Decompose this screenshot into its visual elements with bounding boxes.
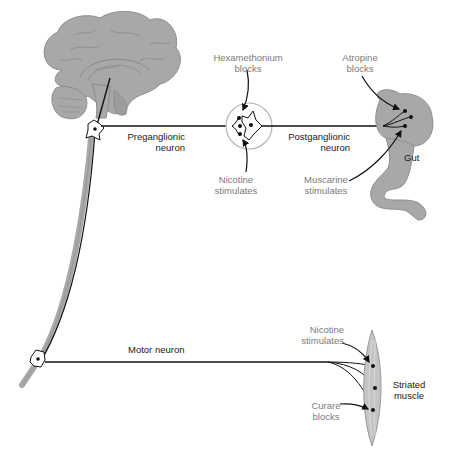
muscarine-label-line1: Muscarine	[296, 174, 356, 185]
striated-muscle-label-line2: muscle	[384, 390, 434, 401]
nicotine-muscle-label-line1: Nicotine	[296, 324, 344, 335]
nicotine-ganglion-label-line2: stimulates	[206, 185, 266, 196]
gut-label: Gut	[404, 152, 419, 163]
postganglionic-label-line1: Postganglionic	[284, 131, 350, 142]
motor-neuron-label: Motor neuron	[128, 344, 185, 355]
atropine-label-line2: blocks	[330, 63, 390, 74]
preganglionic-label: Preganglionic neuron	[125, 131, 185, 153]
preganglionic-label-line1: Preganglionic	[125, 131, 185, 142]
muscarine-label-line2: stimulates	[296, 185, 356, 196]
striated-muscle-label: Striated muscle	[384, 379, 434, 401]
motor-cell-body	[30, 350, 45, 367]
postganglionic-label: Postganglionic neuron	[284, 131, 350, 153]
nicotine-muscle-label-line2: stimulates	[296, 335, 344, 346]
postganglionic-label-line2: neuron	[284, 142, 350, 153]
hexamethonium-label-line2: blocks	[208, 63, 288, 74]
curare-label-line1: Curare	[306, 400, 346, 411]
hexamethonium-label: Hexamethonium blocks	[208, 52, 288, 74]
nicotine-muscle-label: Nicotine stimulates	[296, 324, 344, 346]
diagram-canvas: Preganglionic neuron Postganglionic neur…	[0, 0, 449, 464]
striated-muscle-illustration	[364, 330, 381, 446]
curare-label: Curare blocks	[306, 400, 346, 422]
brain-illustration	[44, 11, 180, 118]
spinal-cord	[22, 128, 92, 385]
atropine-label: Atropine blocks	[330, 52, 390, 74]
nicotine-muscle-arrow	[342, 343, 369, 362]
hexamethonium-label-line1: Hexamethonium	[208, 52, 288, 63]
nicotine-ganglion-label-line1: Nicotine	[206, 174, 266, 185]
preganglionic-label-line2: neuron	[125, 142, 185, 153]
muscarine-label: Muscarine stimulates	[296, 174, 356, 196]
striated-muscle-label-line1: Striated	[384, 379, 434, 390]
preganglionic-cell-body	[86, 120, 104, 140]
atropine-label-line1: Atropine	[330, 52, 390, 63]
nicotine-ganglion-label: Nicotine stimulates	[206, 174, 266, 196]
gut-illustration	[371, 90, 433, 220]
curare-label-line2: blocks	[306, 411, 346, 422]
